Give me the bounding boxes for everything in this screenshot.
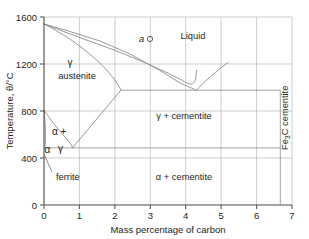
xtick-label-2: 2 bbox=[112, 210, 117, 221]
region-label-alpha-plus: α + bbox=[52, 126, 67, 137]
region-label-austenite: austenite bbox=[58, 71, 96, 81]
point-a-label: a bbox=[139, 34, 144, 44]
ytick-label-1200: 1200 bbox=[16, 59, 37, 70]
y-axis-title: Temperature, θ/°C bbox=[4, 72, 15, 149]
x-axis-title: Mass percentage of carbon bbox=[110, 224, 225, 235]
xtick-label-5: 5 bbox=[218, 210, 223, 221]
xtick-label-6: 6 bbox=[254, 210, 259, 221]
cementite-axis-label: Fe3C cementite bbox=[280, 86, 291, 150]
ytick-label-800: 800 bbox=[21, 106, 37, 117]
xtick-label-0: 0 bbox=[41, 210, 46, 221]
region-label-austenite-greek: γ bbox=[68, 57, 73, 68]
xtick-label-4: 4 bbox=[183, 210, 188, 221]
xtick-label-7: 7 bbox=[289, 210, 294, 221]
y-tick-labels: 1600 1200 800 400 0 bbox=[16, 12, 37, 211]
phase-diagram-figure: 1600 1200 800 400 0 0 1 2 3 4 5 6 7 Mass… bbox=[0, 0, 309, 239]
ytick-label-1600: 1600 bbox=[16, 12, 37, 23]
region-label-alpha-cementite: α + cementite bbox=[156, 172, 212, 182]
xtick-label-1: 1 bbox=[77, 210, 82, 221]
region-label-gamma-small: γ bbox=[58, 143, 63, 154]
y-tick-marks bbox=[40, 17, 44, 205]
xtick-label-3: 3 bbox=[148, 210, 153, 221]
region-label-ferrite: ferrite bbox=[56, 172, 80, 182]
region-label-alpha: α bbox=[45, 144, 51, 155]
ytick-label-400: 400 bbox=[21, 153, 37, 164]
iron-carbon-diagram: 1600 1200 800 400 0 0 1 2 3 4 5 6 7 Mass… bbox=[0, 0, 309, 239]
region-label-liquid: Liquid bbox=[181, 31, 206, 41]
ytick-label-0: 0 bbox=[32, 200, 37, 211]
region-label-gamma-cementite: γ + cementite bbox=[156, 111, 212, 121]
x-tick-labels: 0 1 2 3 4 5 6 7 bbox=[41, 210, 294, 221]
x-tick-marks bbox=[44, 205, 292, 209]
